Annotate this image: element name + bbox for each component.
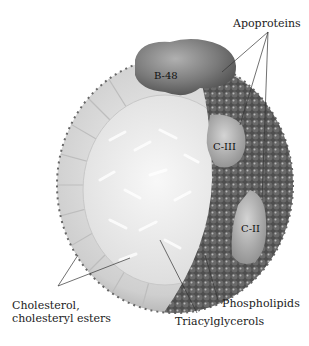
label-cholesterol: Cholesterol, cholesteryl esters [12,299,111,325]
label-cholesterol-line2: cholesteryl esters [12,312,111,325]
label-cholesterol-line1: Cholesterol, [12,299,111,312]
lipoprotein-diagram [0,0,309,346]
label-c3: C-III [213,141,236,152]
label-phospholipids: Phospholipids [222,297,300,310]
label-b48: B-48 [154,70,178,81]
label-c2: C-II [241,223,260,234]
label-apoproteins: Apoproteins [233,17,301,30]
label-triacylglycerols: Triacylglycerols [175,315,264,328]
